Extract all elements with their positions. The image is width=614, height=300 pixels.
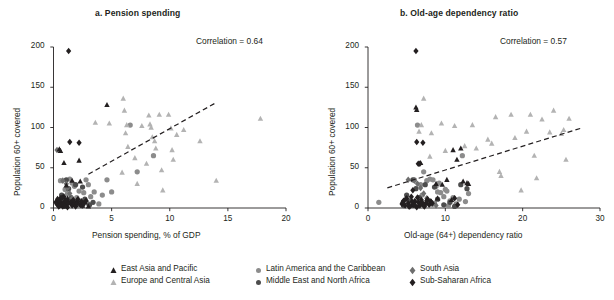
figure-root: a. Pension spendingCorrelation = 0.64Pop… xyxy=(0,0,614,300)
legend: East Asia and PacificEurope and Central … xyxy=(0,0,614,300)
legend-label-lac: Latin America and the Caribbean xyxy=(266,264,385,273)
legend-marker-circle-icon xyxy=(254,278,263,287)
legend-marker-shape xyxy=(110,279,116,285)
legend-label-mena: Middle East and North Africa xyxy=(266,276,370,285)
legend-label-ssa: Sub-Saharan Africa xyxy=(420,276,491,285)
legend-marker-shape xyxy=(110,267,116,273)
legend-marker-circle-icon xyxy=(254,266,263,275)
legend-label-sa: South Asia xyxy=(420,264,459,273)
legend-marker-diamond-icon xyxy=(408,266,417,275)
legend-marker-shape xyxy=(410,266,416,273)
legend-marker-triangle-icon xyxy=(109,278,118,287)
legend-label-eap: East Asia and Pacific xyxy=(121,264,197,273)
legend-marker-shape xyxy=(256,268,261,273)
legend-marker-shape xyxy=(256,280,261,285)
legend-marker-triangle-icon xyxy=(109,266,118,275)
legend-marker-diamond-icon xyxy=(408,278,417,287)
legend-marker-shape xyxy=(410,278,416,285)
legend-label-eca: Europe and Central Asia xyxy=(121,276,210,285)
